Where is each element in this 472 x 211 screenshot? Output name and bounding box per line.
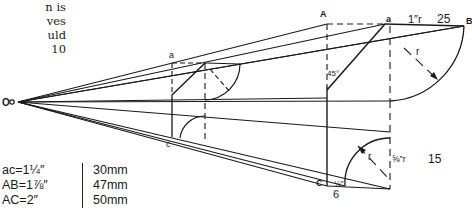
imperial-value: AB=1⅞″ — [2, 178, 82, 193]
conversion-row: AB=1⅞″ 47mm — [2, 178, 128, 193]
edge-aB — [385, 24, 464, 26]
label-c-left: c — [166, 139, 171, 149]
label-A: A — [320, 9, 327, 19]
label-angle: 45° — [327, 69, 339, 78]
edge-mid-a-to-B — [18, 26, 464, 102]
label-quarter-inch: ¼″ — [334, 179, 344, 188]
metric-value: 50mm — [82, 193, 128, 208]
conversion-row: ac=1¼″ 30mm — [2, 163, 128, 178]
label-a-left: a — [169, 50, 174, 60]
label-r-top: r — [416, 46, 420, 57]
metric-value: 30mm — [82, 163, 128, 178]
label-top-radius-mm: 25 — [437, 12, 451, 26]
label-top-radius: 1″r — [408, 13, 422, 25]
label-B: B — [466, 16, 472, 26]
edge-45-degree — [327, 24, 385, 90]
metric-value: 47mm — [82, 178, 128, 193]
label-a-top: a — [386, 14, 392, 24]
label-O: O — [2, 97, 10, 108]
small-radius-arrow — [210, 69, 230, 92]
label-quarter-inch-mm: 6 — [333, 188, 339, 200]
label-bottom-radius: ⅝″r — [392, 154, 406, 164]
label-C: C — [316, 178, 323, 188]
imperial-value: AC=2″ — [2, 193, 82, 208]
projector-line — [18, 24, 385, 102]
origin-point — [10, 100, 14, 104]
conversion-table: ac=1¼″ 30mm AB=1⅞″ 47mm AC=2″ 50mm — [2, 163, 128, 208]
small-arc-bottom — [180, 116, 205, 138]
small-edge-top — [205, 63, 240, 64]
label-bottom-radius-mm: 15 — [428, 152, 442, 166]
conversion-row: AC=2″ 50mm — [2, 193, 128, 208]
imperial-value: ac=1¼″ — [2, 163, 82, 178]
